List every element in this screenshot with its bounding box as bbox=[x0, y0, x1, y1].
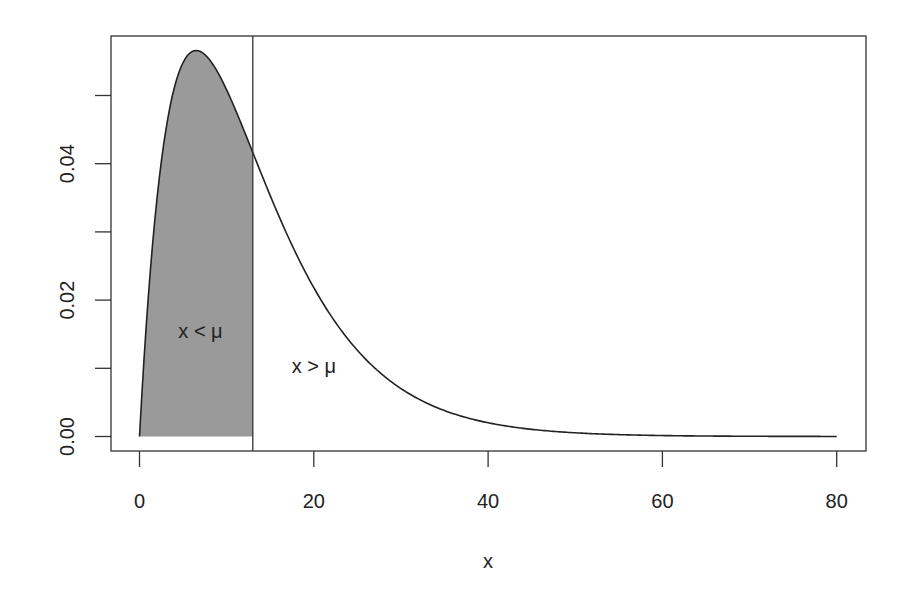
density-chart: 020406080 0.000.020.04 x < μ x > μ x bbox=[0, 0, 910, 599]
shaded-region-below-mean bbox=[140, 51, 253, 437]
x-axis: 020406080 bbox=[134, 451, 848, 512]
x-tick-label: 0 bbox=[134, 490, 145, 512]
x-axis-label: x bbox=[483, 550, 493, 572]
y-tick-label: 0.02 bbox=[56, 281, 78, 320]
x-tick-label: 60 bbox=[651, 490, 673, 512]
x-tick-label: 40 bbox=[477, 490, 499, 512]
x-tick-label: 80 bbox=[826, 490, 848, 512]
x-tick-label: 20 bbox=[303, 490, 325, 512]
y-axis: 0.000.020.04 bbox=[56, 96, 111, 456]
annotation-above-mean: x > μ bbox=[292, 355, 336, 377]
y-tick-label: 0.04 bbox=[56, 144, 78, 183]
annotation-below-mean: x < μ bbox=[178, 320, 222, 342]
y-tick-label: 0.00 bbox=[56, 417, 78, 456]
